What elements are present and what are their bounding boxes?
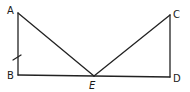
point-label-c: C xyxy=(173,9,180,20)
point-label-d: D xyxy=(173,73,181,84)
point-label-b: B xyxy=(7,70,14,81)
point-label-e: E xyxy=(89,80,96,91)
segment-ae xyxy=(18,13,94,76)
tick-mark-ab xyxy=(13,55,21,60)
segment-ce xyxy=(94,15,170,76)
geometry-diagram: A B C D E xyxy=(0,0,190,92)
point-label-a: A xyxy=(7,5,14,16)
